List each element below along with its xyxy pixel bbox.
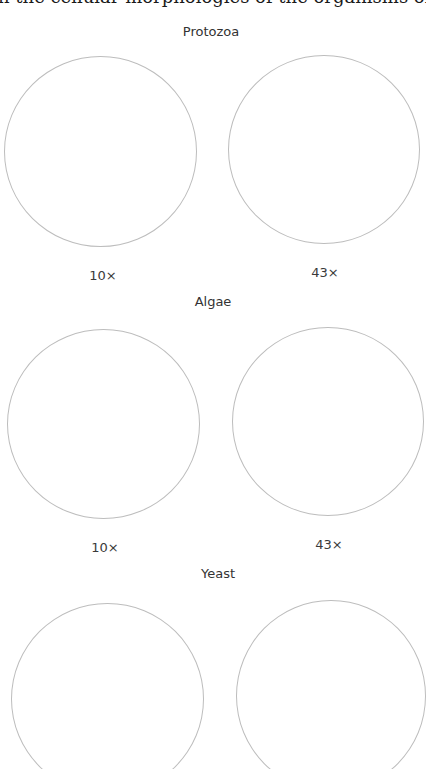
section-title-algae: Algae <box>195 294 232 309</box>
drawing-circle-protozoa-43x[interactable] <box>228 55 420 244</box>
drawing-circle-algae-10x[interactable] <box>7 329 200 519</box>
drawing-circle-yeast-43x[interactable] <box>236 600 426 769</box>
intro-text: n the cellular morphologies of the organ… <box>0 0 426 8</box>
drawing-circle-algae-43x[interactable] <box>232 327 424 516</box>
magnification-label-protozoa-43x: 43× <box>311 265 338 280</box>
magnification-label-protozoa-10x: 10× <box>89 268 116 283</box>
drawing-circle-yeast-10x[interactable] <box>11 603 204 769</box>
drawing-circle-protozoa-10x[interactable] <box>4 56 197 247</box>
section-title-yeast: Yeast <box>201 566 235 581</box>
section-title-protozoa: Protozoa <box>183 24 239 39</box>
magnification-label-algae-10x: 10× <box>91 540 118 555</box>
magnification-label-algae-43x: 43× <box>315 537 342 552</box>
